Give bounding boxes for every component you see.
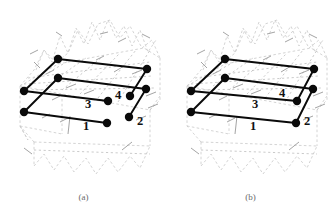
lattice-node [142,85,150,93]
lattice-label-1: 1 [250,119,256,133]
lattice-label-4: 4 [115,88,122,102]
figure-panel-a: 1234 (a) [0,0,167,219]
lattice-node [54,55,62,63]
lattice-node [221,55,229,63]
lattice-node [310,65,318,73]
figure-container: 1234 (a) [0,0,334,219]
figure-panel-b: 1234 (b) [167,0,334,219]
lattice-node [125,113,133,121]
lattice-node [143,65,151,73]
lattice-edge [191,78,225,112]
lattice-label-4: 4 [279,86,286,100]
lattice-labels-a: 1234 [83,88,143,133]
lattice-node [20,108,28,116]
lattice-node [104,97,112,105]
lattice-node [187,87,195,95]
panel-a-drawing: 1234 [0,0,167,195]
lattice-edge [24,112,107,123]
lattice-label-2: 2 [137,114,143,128]
lattice-edge [225,78,313,89]
panel-a-caption: (a) [0,192,167,202]
lattice-label-3: 3 [85,97,91,111]
lattice-nodes-a [20,55,151,127]
panel-b-caption: (b) [167,192,334,202]
lattice-node [309,85,317,93]
lattice-node [292,119,300,127]
lattice-label-3: 3 [252,97,258,111]
lattice-edge [191,112,296,123]
lattice-node [221,74,229,82]
lattice-node [54,74,62,82]
lattice-edge [58,78,146,89]
lattice-node [126,92,134,100]
lattice-label-1: 1 [83,119,89,133]
lattice-node [187,108,195,116]
panel-b-drawing: 1234 [167,0,334,195]
lattice-node [103,119,111,127]
lattice-node [293,97,301,105]
lattice-edges-b [191,59,314,123]
lattice-label-2: 2 [304,114,310,128]
lattice-node [20,87,28,95]
